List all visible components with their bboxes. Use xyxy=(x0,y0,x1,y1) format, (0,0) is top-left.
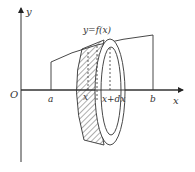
label-x: x xyxy=(83,92,88,102)
diagram-canvas: y x O y=f(x) a b x x+dx xyxy=(0,0,195,172)
label-y: y xyxy=(25,6,32,17)
outer-ellipse xyxy=(95,39,125,145)
figure: y x O y=f(x) a b x x+dx xyxy=(0,0,195,172)
label-x-axis: x xyxy=(173,95,179,106)
label-a: a xyxy=(48,94,53,104)
label-b: b xyxy=(150,94,156,104)
label-origin: O xyxy=(10,89,18,100)
label-curve: y=f(x) xyxy=(82,25,112,35)
label-x-plus-dx: x+dx xyxy=(102,94,125,104)
